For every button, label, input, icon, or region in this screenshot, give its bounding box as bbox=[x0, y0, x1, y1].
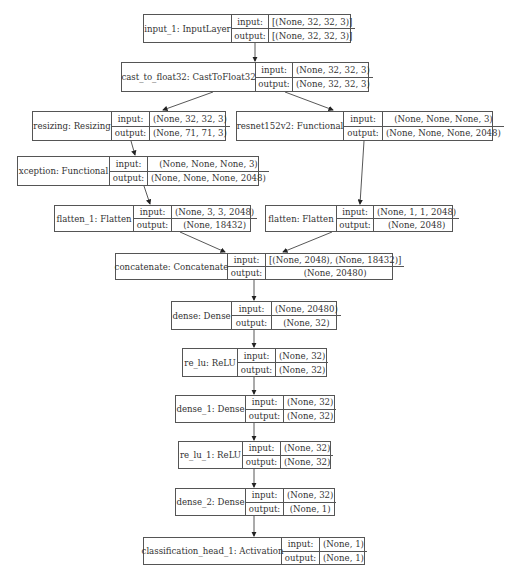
output-shape: (None, 71, 71, 3) bbox=[150, 127, 230, 141]
input-label: input: bbox=[337, 206, 374, 218]
node-name: dense_2: Dense bbox=[176, 489, 246, 515]
node-concatenate: concatenate: Concatenate input:[(None, 2… bbox=[115, 253, 393, 280]
node-resnet152v2: resnet152v2: Functional input:(None, Non… bbox=[236, 111, 493, 141]
node-flatten-1: flatten_1: Flatten input:(None, 3, 3, 20… bbox=[54, 205, 251, 232]
output-shape: (None, 32) bbox=[276, 363, 328, 376]
output-label: output: bbox=[256, 78, 293, 92]
output-label: output: bbox=[246, 410, 284, 423]
output-shape: (None, 18432) bbox=[172, 219, 257, 231]
node-name: flatten: Flatten bbox=[266, 206, 337, 231]
output-shape: (None, 32) bbox=[281, 456, 333, 469]
node-re-lu-1: re_lu_1: ReLU input:(None, 32) output:(N… bbox=[178, 441, 331, 469]
node-name: dense: Dense bbox=[172, 302, 232, 329]
model-diagram: input_1: InputLayer input:[(None, 32, 32… bbox=[0, 0, 508, 579]
output-label: output: bbox=[282, 552, 320, 565]
input-label: input: bbox=[232, 302, 272, 315]
node-cast-to-float32: cast_to_float32: CastToFloat32 input:(No… bbox=[121, 62, 369, 92]
output-label: output: bbox=[134, 219, 172, 231]
edge-resnet-flatten bbox=[360, 141, 364, 204]
node-name: input_1: InputLayer bbox=[144, 15, 232, 42]
output-shape: (None, 2048) bbox=[374, 219, 459, 231]
output-label: output: bbox=[243, 456, 281, 469]
input-shape: (None, 32) bbox=[284, 489, 336, 502]
output-shape: (None, 20480) bbox=[266, 267, 404, 279]
output-shape: [(None, 32, 32, 3)] bbox=[269, 29, 355, 42]
output-shape: (None, 1) bbox=[284, 503, 336, 516]
input-label: input: bbox=[243, 442, 281, 455]
output-shape: (None, 1) bbox=[320, 552, 367, 565]
node-dense-1: dense_1: Dense input:(None, 32) output:(… bbox=[175, 395, 335, 423]
node-re-lu: re_lu: ReLU input:(None, 32) output:(Non… bbox=[182, 348, 327, 377]
node-classification-head-1: classification_head_1: Activation input:… bbox=[143, 537, 365, 565]
input-label: input: bbox=[110, 157, 148, 171]
input-shape: (None, 32, 32, 3) bbox=[293, 63, 373, 77]
input-label: input: bbox=[228, 254, 266, 266]
output-label: output: bbox=[110, 172, 148, 186]
output-shape: (None, 32) bbox=[284, 410, 336, 423]
input-shape: (None, 1, 1, 2048) bbox=[374, 206, 459, 218]
edge-resizing-xception bbox=[131, 141, 135, 155]
input-label: input: bbox=[232, 15, 269, 28]
input-shape: (None, 1) bbox=[320, 538, 367, 551]
input-label: input: bbox=[246, 489, 284, 502]
input-shape: (None, 20480) bbox=[272, 302, 341, 315]
input-shape: (None, 32) bbox=[276, 349, 328, 362]
output-label: output: bbox=[337, 219, 374, 231]
output-label: output: bbox=[232, 29, 269, 42]
output-shape: (None, 32) bbox=[272, 316, 341, 329]
input-shape: (None, 32) bbox=[284, 396, 336, 409]
node-name: resizing: Resizing bbox=[33, 112, 112, 140]
input-label: input: bbox=[256, 63, 293, 77]
input-label: input: bbox=[112, 112, 150, 126]
edge-xception-flatten1 bbox=[144, 186, 150, 204]
node-name: re_lu_1: ReLU bbox=[179, 442, 243, 468]
node-name: xception: Functional bbox=[18, 157, 110, 185]
input-shape: [(None, 32, 32, 3)] bbox=[269, 15, 355, 28]
node-name: flatten_1: Flatten bbox=[55, 206, 134, 231]
node-flatten: flatten: Flatten input:(None, 1, 1, 2048… bbox=[265, 205, 453, 232]
input-shape: [(None, 2048), (None, 18432)] bbox=[266, 254, 404, 266]
node-name: cast_to_float32: CastToFloat32 bbox=[122, 63, 256, 91]
output-label: output: bbox=[344, 127, 383, 141]
input-label: input: bbox=[282, 538, 320, 551]
node-dense-2: dense_2: Dense input:(None, 32) output:(… bbox=[175, 488, 335, 516]
edge-flatten1-concat bbox=[180, 232, 225, 252]
output-label: output: bbox=[238, 363, 276, 376]
output-label: output: bbox=[228, 267, 266, 279]
node-name: re_lu: ReLU bbox=[183, 349, 238, 376]
node-name: classification_head_1: Activation bbox=[144, 538, 282, 564]
input-shape: (None, 32, 32, 3) bbox=[150, 112, 230, 126]
edge-cast-resizing bbox=[163, 92, 213, 110]
node-dense: dense: Dense input:(None, 20480) output:… bbox=[171, 301, 337, 330]
input-shape: (None, None, None, 3) bbox=[383, 112, 504, 126]
node-resizing: resizing: Resizing input:(None, 32, 32, … bbox=[32, 111, 226, 141]
output-shape: (None, None, None, 2048) bbox=[148, 172, 269, 186]
input-label: input: bbox=[246, 396, 284, 409]
edge-flatten-concat bbox=[283, 232, 332, 252]
output-label: output: bbox=[246, 503, 284, 516]
input-shape: (None, 32) bbox=[281, 442, 333, 455]
node-name: resnet152v2: Functional bbox=[237, 112, 344, 140]
output-label: output: bbox=[232, 316, 272, 329]
input-label: input: bbox=[344, 112, 383, 126]
node-name: dense_1: Dense bbox=[176, 396, 246, 422]
node-input-1: input_1: InputLayer input:[(None, 32, 32… bbox=[143, 14, 351, 43]
input-label: input: bbox=[134, 206, 172, 218]
node-xception: xception: Functional input:(None, None, … bbox=[17, 156, 259, 186]
edge-cast-resnet bbox=[285, 92, 333, 110]
input-label: input: bbox=[238, 349, 276, 362]
input-shape: (None, None, None, 3) bbox=[148, 157, 269, 171]
output-shape: (None, 32, 32, 3) bbox=[293, 78, 373, 92]
output-label: output: bbox=[112, 127, 150, 141]
output-shape: (None, None, None, 2048) bbox=[383, 127, 504, 141]
node-name: concatenate: Concatenate bbox=[116, 254, 228, 279]
input-shape: (None, 3, 3, 2048) bbox=[172, 206, 257, 218]
